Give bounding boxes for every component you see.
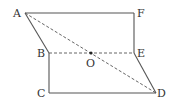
label-f: F	[137, 7, 145, 20]
label-e: E	[137, 47, 145, 60]
label-o: O	[86, 57, 95, 70]
label-d: D	[157, 87, 166, 100]
geometry-diagram: A F B E O C D	[0, 0, 177, 106]
label-a: A	[12, 7, 22, 20]
label-c: C	[37, 87, 45, 100]
point-o-marker	[89, 51, 92, 54]
label-b: B	[37, 47, 45, 60]
